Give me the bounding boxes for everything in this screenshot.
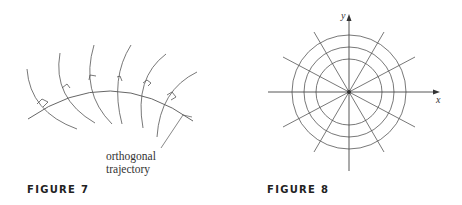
trajectory-annotation: orthogonal trajectory bbox=[106, 150, 156, 176]
annotation-line-2: trajectory bbox=[106, 163, 156, 176]
y-axis-arrow-icon bbox=[347, 14, 352, 21]
annotation-pointer bbox=[161, 115, 192, 148]
x-axis-label: x bbox=[436, 94, 440, 105]
figure-7-caption: FIGURE 7 bbox=[27, 184, 89, 195]
annotation-line-1: orthogonal bbox=[106, 150, 156, 163]
family-curve-3 bbox=[90, 45, 112, 124]
figure-8-caption: FIGURE 8 bbox=[267, 184, 329, 195]
family-curve-1 bbox=[27, 69, 77, 129]
family-curve-5 bbox=[141, 54, 166, 128]
figure-8-diagram bbox=[231, 0, 462, 205]
y-axis-label: y bbox=[341, 10, 345, 21]
figure-8: y x FIGURE 8 bbox=[231, 0, 462, 205]
family-curve-6 bbox=[157, 72, 197, 137]
family-curve-2 bbox=[59, 53, 95, 123]
family-curve-4 bbox=[118, 45, 131, 124]
figure-7: orthogonal trajectory FIGURE 7 bbox=[0, 0, 231, 205]
origin-point bbox=[347, 90, 351, 94]
